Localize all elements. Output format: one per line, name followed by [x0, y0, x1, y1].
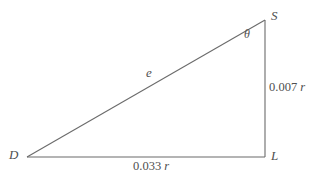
- vertex-label-S: S: [271, 9, 278, 22]
- measure-label-vertical: 0.007 r: [269, 81, 305, 94]
- measure-label-base: 0.033 r: [133, 160, 169, 173]
- side-label-e: e: [146, 66, 152, 79]
- measure-unit-base: r: [164, 159, 169, 173]
- triangle-side-hypotenuse-DS: [27, 20, 265, 157]
- vertex-label-D: D: [9, 148, 18, 161]
- measure-value-vertical: 0.007: [269, 80, 297, 94]
- angle-label-theta: θ: [244, 28, 250, 40]
- vertex-label-L: L: [271, 149, 278, 162]
- geometry-figure: S D L e θ 0.007 r 0.033 r: [0, 0, 314, 189]
- measure-value-base: 0.033: [133, 159, 161, 173]
- measure-unit-vertical: r: [300, 80, 305, 94]
